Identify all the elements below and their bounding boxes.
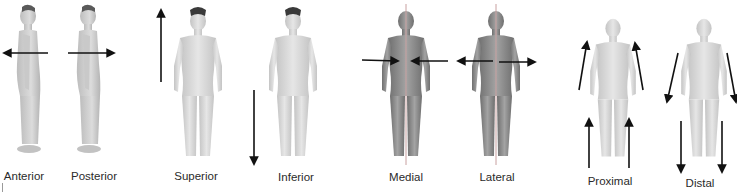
label-inferior: Inferior xyxy=(278,171,314,183)
figure-posterior xyxy=(77,5,101,153)
edge-mark xyxy=(2,183,3,192)
directional-terms-diagram: Anterior Posterior Superior Inferior Med… xyxy=(0,0,737,194)
label-lateral: Lateral xyxy=(479,171,514,183)
label-superior: Superior xyxy=(174,170,217,182)
label-medial: Medial xyxy=(389,171,423,183)
figures-canvas xyxy=(0,0,737,194)
label-distal: Distal xyxy=(686,177,715,189)
label-posterior: Posterior xyxy=(71,170,117,182)
figure-anterior xyxy=(17,5,41,153)
label-proximal: Proximal xyxy=(588,175,633,187)
label-anterior: Anterior xyxy=(4,170,44,182)
